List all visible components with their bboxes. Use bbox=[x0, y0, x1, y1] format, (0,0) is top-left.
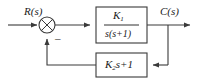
feedback-return-line bbox=[47, 39, 96, 65]
feedback-block-rect bbox=[96, 53, 147, 77]
diagram-canvas bbox=[0, 0, 197, 82]
block-diagram-figure: R(s) C(s) – K1 s(s+1) K2s+1 bbox=[0, 0, 197, 82]
